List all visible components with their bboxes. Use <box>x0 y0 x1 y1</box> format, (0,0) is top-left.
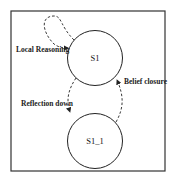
state-s1-1-label: S1_1 <box>86 136 103 146</box>
frame-border <box>11 11 165 171</box>
transition-belief-closure <box>116 80 122 122</box>
transition-belief-closure-label: Belief closure <box>124 77 168 86</box>
transition-local-reasoning-loop <box>44 16 74 48</box>
transition-reflection-down-label: Reflection down <box>21 99 74 108</box>
state-s1-label: S1 <box>91 53 100 63</box>
state-diagram: S1 S1_1 Local Reasoning Reflection down … <box>0 0 174 182</box>
transition-local-reasoning-label: Local Reasoning <box>16 45 69 54</box>
